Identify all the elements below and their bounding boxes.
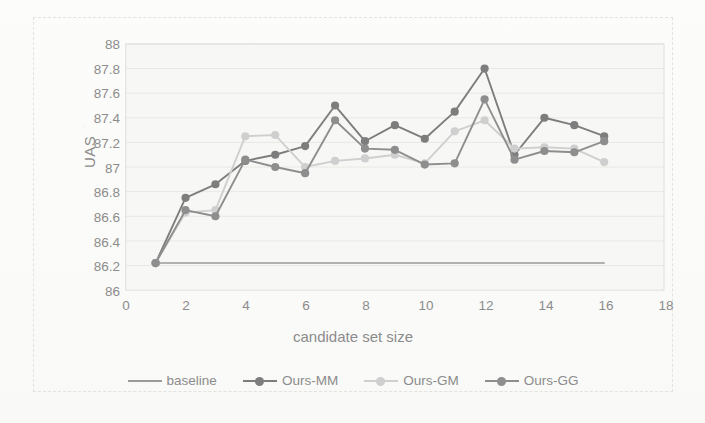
legend-swatch-icon [364, 375, 398, 387]
chart-legend: baselineOurs-MMOurs-GMOurs-GG [34, 373, 672, 388]
legend-item-baseline[interactable]: baseline [128, 373, 217, 388]
legend-item-ours-gm[interactable]: Ours-GM [364, 373, 459, 388]
legend-label: Ours-GM [403, 373, 459, 388]
legend-label: Ours-MM [282, 373, 338, 388]
legend-item-ours-mm[interactable]: Ours-MM [243, 373, 338, 388]
legend-swatch-icon [485, 375, 519, 387]
legend-swatch-icon [128, 375, 162, 387]
legend-label: Ours-GG [524, 373, 579, 388]
chart-frame: UAS 8686.286.486.686.88787.287.487.687.8… [33, 17, 673, 392]
legend-swatch-icon [243, 375, 277, 387]
x-axis-title: candidate set size [34, 328, 672, 345]
legend-item-ours-gg[interactable]: Ours-GG [485, 373, 579, 388]
legend-label: baseline [167, 373, 217, 388]
